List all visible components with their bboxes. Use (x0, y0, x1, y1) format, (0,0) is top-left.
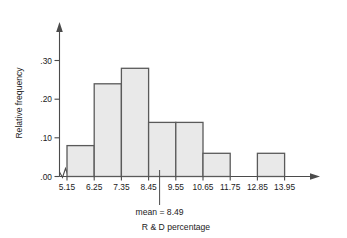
x-tick-label-6: 11.75 (220, 182, 241, 192)
y-tick-labels: .00 .10 .20 .30 (40, 56, 52, 182)
mean-label: mean = 8.49 (136, 207, 184, 217)
x-tick-label-4: 9.55 (168, 182, 185, 192)
x-tick-label-2: 7.35 (113, 182, 130, 192)
histogram-bar (121, 68, 148, 176)
histogram-plot: .00 .10 .20 .30 (0, 0, 347, 238)
histogram-bars (67, 68, 285, 176)
x-axis-arrow-icon (310, 173, 320, 180)
y-tick-label-0: .00 (40, 172, 52, 182)
x-axis-title: R & D percentage (142, 222, 211, 232)
y-tick-label-2: .20 (40, 94, 52, 104)
y-axis-title: Relative frequency (14, 67, 24, 139)
y-tick-label-3: .30 (40, 56, 52, 66)
histogram-bar (176, 122, 203, 176)
x-tick-label-8: 13.95 (274, 182, 295, 192)
x-tick-label-7: 12.85 (247, 182, 268, 192)
y-tick-marks (55, 61, 60, 177)
histogram-bar (94, 84, 121, 177)
x-tick-labels: 5.15 6.25 7.35 8.45 9.55 10.65 11.75 12.… (59, 182, 296, 192)
y-axis-arrow-icon (56, 22, 63, 32)
histogram-bar (149, 122, 176, 176)
histogram-figure: .00 .10 .20 .30 (0, 0, 347, 238)
histogram-bar (257, 153, 284, 176)
histogram-bar (67, 146, 94, 177)
x-tick-label-5: 10.65 (193, 182, 214, 192)
y-tick-label-1: .10 (40, 133, 52, 143)
histogram-bar (203, 153, 230, 176)
x-tick-label-1: 6.25 (86, 182, 103, 192)
x-tick-label-3: 8.45 (140, 182, 157, 192)
x-tick-label-0: 5.15 (59, 182, 76, 192)
